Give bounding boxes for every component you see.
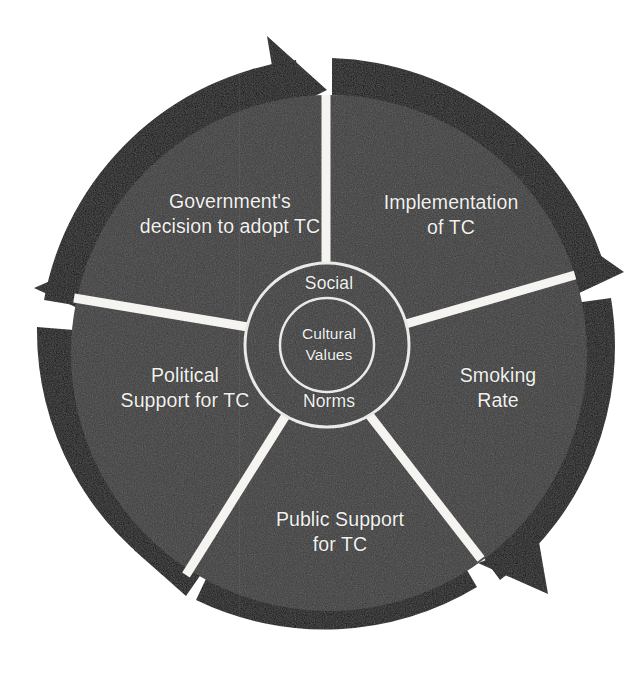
wheel-graphic <box>0 0 642 676</box>
center-inner-circle <box>280 298 374 392</box>
cyclic-diagram: Government's decision to adopt TC Implem… <box>0 0 642 676</box>
